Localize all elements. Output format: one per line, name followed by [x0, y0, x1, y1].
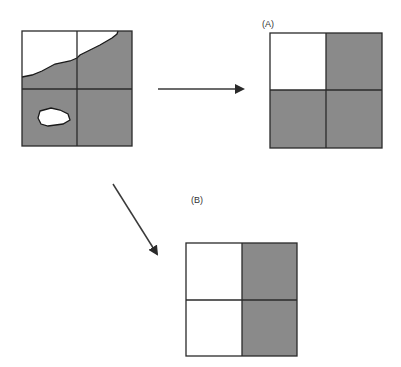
grid-b-cell-0-0: [186, 243, 242, 300]
diagram-canvas: [0, 0, 401, 367]
grid-a-cell-1-0: [270, 90, 326, 148]
grid-a: [270, 33, 382, 148]
grid-b: [186, 243, 297, 356]
source-grid: [22, 31, 132, 146]
grid-a-label: (A): [262, 19, 274, 29]
grid-b-cell-0-1: [242, 243, 297, 300]
grid-b-cell-1-0: [186, 300, 242, 356]
arrow-to-b: [113, 184, 157, 254]
grid-a-cell-1-1: [326, 90, 382, 148]
grid-b-label: (B): [191, 195, 203, 205]
grid-b-cell-1-1: [242, 300, 297, 356]
grid-a-cell-0-1: [326, 33, 382, 90]
grid-a-cell-0-0: [270, 33, 326, 90]
